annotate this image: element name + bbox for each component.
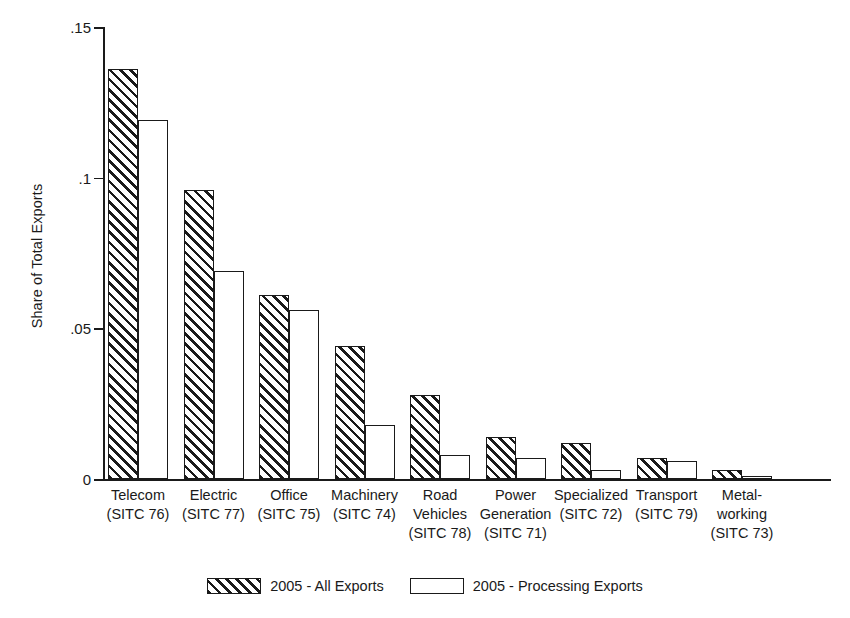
bar-processing-exports (138, 120, 168, 479)
y-tick-label: .15 (70, 19, 91, 36)
bar-group (410, 27, 470, 479)
bar-group (486, 27, 546, 479)
y-tick-mark (94, 328, 103, 330)
bar-group (561, 27, 621, 479)
bar-all-exports (410, 395, 440, 479)
bar-all-exports (335, 346, 365, 479)
y-tick-label: .1 (78, 170, 91, 187)
bar-group (637, 27, 697, 479)
y-tick-label: .05 (70, 320, 91, 337)
x-axis-label-metal-working: Metal-working(SITC 73) (682, 486, 802, 543)
legend-entry-processing-exports[interactable]: 2005 - Processing Exports (410, 578, 643, 594)
legend-label: 2005 - Processing Exports (473, 578, 643, 594)
bar-all-exports (108, 69, 138, 479)
bar-processing-exports (440, 455, 470, 479)
y-tick-mark (94, 178, 103, 180)
y-tick-mark (94, 27, 103, 29)
bar-processing-exports (591, 470, 621, 479)
bar-all-exports (184, 190, 214, 479)
bar-group (712, 27, 772, 479)
bar-all-exports (712, 470, 742, 479)
bar-group (259, 27, 319, 479)
bar-all-exports (486, 437, 516, 479)
x-label-name: working (682, 505, 802, 524)
bar-group (184, 27, 244, 479)
x-label-name: Metal- (682, 486, 802, 505)
bar-processing-exports (667, 461, 697, 479)
legend-swatch-open (410, 578, 464, 594)
x-label-code: (SITC 73) (682, 524, 802, 543)
legend-swatch-hatched (207, 578, 261, 594)
bar-all-exports (637, 458, 667, 479)
legend-entry-all-exports[interactable]: 2005 - All Exports (207, 578, 384, 594)
bar-all-exports (259, 295, 289, 479)
bar-processing-exports (214, 271, 244, 479)
legend-label: 2005 - All Exports (270, 578, 384, 594)
plot-area (103, 27, 831, 479)
bar-group (108, 27, 168, 479)
bar-processing-exports (742, 476, 772, 479)
y-axis-title: Share of Total Exports (29, 126, 45, 386)
bar-processing-exports (516, 458, 546, 479)
x-axis-line (103, 479, 831, 481)
chart-legend: 2005 - All Exports2005 - Processing Expo… (0, 578, 850, 594)
y-tick-mark (94, 479, 103, 481)
bar-chart-figure: Share of Total Exports 0.05.1.15 Telecom… (0, 0, 850, 618)
bar-all-exports (561, 443, 591, 479)
bar-group (335, 27, 395, 479)
x-label-code: (SITC 71) (456, 524, 576, 543)
bar-processing-exports (289, 310, 319, 479)
bar-processing-exports (365, 425, 395, 479)
